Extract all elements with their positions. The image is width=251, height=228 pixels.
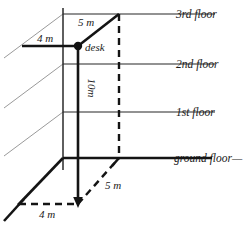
- floor-label-second: 2nd floor: [176, 58, 219, 71]
- floor-label-third: 3rd floor: [175, 8, 217, 21]
- base-left-edge-extension: [4, 199, 24, 221]
- building-diagram: 3rd floor 2nd floor 1st floor ground flo…: [0, 0, 251, 228]
- desk-point-marker: [74, 42, 82, 50]
- building-diagram-canvas: 3rd floor 2nd floor 1st floor ground flo…: [0, 0, 251, 228]
- base-left-receding-edge: [18, 158, 63, 205]
- dimension-label-top-width: 5 m: [78, 16, 94, 28]
- guide-line-first-floor: [4, 112, 63, 156]
- desk-label: desk: [85, 41, 106, 53]
- dimension-label-height: 10m: [86, 79, 98, 98]
- ground-floor-trailing-dash: —: [231, 152, 243, 164]
- guide-line-third-floor: [4, 14, 63, 58]
- dimension-label-base-depth: 4 m: [39, 208, 55, 220]
- perspective-guide-lines: [4, 14, 63, 156]
- guide-line-second-floor: [4, 64, 63, 108]
- floor-label-ground: ground floor: [174, 152, 233, 165]
- floor-label-group: 3rd floor 2nd floor 1st floor ground flo…: [174, 8, 243, 165]
- dimension-label-base-width: 5 m: [105, 179, 121, 191]
- floor-label-first: 1st floor: [176, 106, 215, 119]
- dimension-label-desk-depth: 4 m: [37, 32, 53, 44]
